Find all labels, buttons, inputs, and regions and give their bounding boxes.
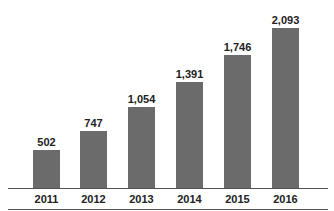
value-label: 2,093	[261, 14, 311, 26]
bar-2016	[272, 28, 299, 188]
x-tick-label: 2016	[261, 193, 311, 205]
bar-2011	[33, 150, 60, 188]
value-label: 1,054	[117, 93, 167, 105]
value-label: 1,746	[213, 41, 263, 53]
x-tick-label: 2015	[213, 193, 263, 205]
x-tick-label: 2011	[22, 193, 72, 205]
bar-2014	[176, 82, 203, 188]
x-tick-label: 2013	[117, 193, 167, 205]
value-label: 502	[22, 136, 72, 148]
value-label: 1,391	[165, 68, 215, 80]
value-label: 747	[69, 117, 119, 129]
x-tick-label: 2014	[165, 193, 215, 205]
bar-2012	[80, 131, 107, 188]
bar-2013	[128, 107, 155, 188]
bottom-rule	[8, 209, 328, 210]
x-axis-line	[8, 188, 328, 189]
x-tick-label: 2012	[69, 193, 119, 205]
bar-2015	[224, 55, 251, 188]
